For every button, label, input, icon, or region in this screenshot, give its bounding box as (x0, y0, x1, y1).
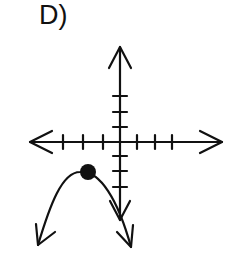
coordinate-graph (0, 0, 239, 272)
vertex-dot (80, 164, 96, 180)
parabola-curve (38, 172, 131, 247)
